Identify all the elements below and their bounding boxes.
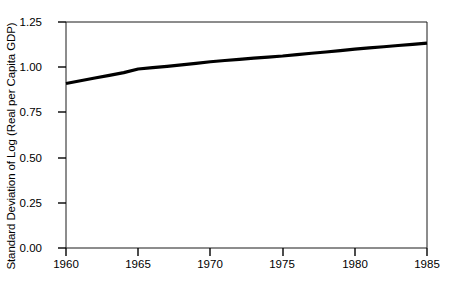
data-series-line [66, 43, 427, 83]
y-tick-marks [58, 22, 66, 248]
x-tick-marks [66, 248, 427, 256]
chart-figure: Standard Deviation of Log (Real per Capi… [0, 0, 452, 292]
plot-area [0, 0, 452, 292]
